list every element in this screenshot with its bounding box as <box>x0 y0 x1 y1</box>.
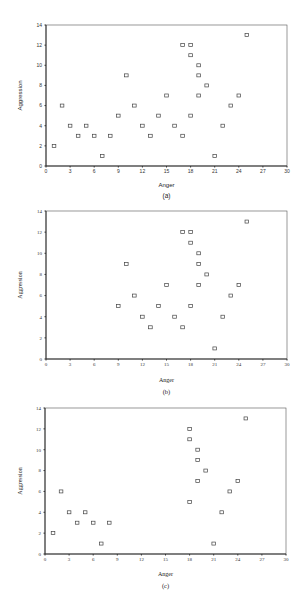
x-tick-label: 24 <box>236 168 242 174</box>
data-point <box>68 124 72 127</box>
data-point <box>125 262 129 265</box>
y-tick-label: 8 <box>40 272 43 277</box>
y-tick-label: 0 <box>39 163 42 169</box>
scatter-figure: 03691215182124273002468101214AngerAggres… <box>0 0 304 612</box>
data-point <box>189 305 193 308</box>
x-axis-title: Anger <box>158 571 173 577</box>
x-tick-label: 15 <box>163 557 169 562</box>
data-point <box>181 44 185 47</box>
data-point <box>197 284 201 287</box>
data-point <box>229 294 233 297</box>
x-tick-label: 18 <box>188 168 194 174</box>
data-point <box>91 521 95 524</box>
data-point <box>149 134 153 137</box>
data-point <box>100 154 104 157</box>
x-tick-label: 30 <box>284 168 290 174</box>
figure-caption: (c) <box>162 582 169 590</box>
y-axis-title: Aggression <box>17 271 23 298</box>
y-tick-label: 6 <box>39 489 42 494</box>
y-tick-label: 2 <box>39 143 42 149</box>
data-point <box>205 84 209 87</box>
data-point <box>117 114 121 117</box>
data-point <box>59 490 63 493</box>
x-tick-label: 3 <box>68 557 71 562</box>
data-point <box>133 294 137 297</box>
x-tick-label: 3 <box>69 168 72 174</box>
x-tick-label: 15 <box>164 168 170 174</box>
y-tick-label: 6 <box>40 293 43 298</box>
scatter-plot-a: 03691215182124273002468101214AngerAggres… <box>17 22 290 200</box>
data-point <box>173 124 177 127</box>
y-axis-title: Aggression <box>17 467 23 494</box>
x-tick-label: 6 <box>93 362 96 367</box>
data-point <box>107 521 111 524</box>
data-point <box>84 124 88 127</box>
data-point <box>117 305 121 308</box>
y-tick-label: 4 <box>39 123 42 129</box>
x-tick-label: 30 <box>284 557 290 562</box>
y-tick-label: 2 <box>39 531 42 536</box>
x-tick-label: 27 <box>260 362 266 367</box>
data-point <box>189 231 193 234</box>
data-point <box>196 459 200 462</box>
data-point <box>188 438 192 441</box>
data-point <box>157 114 161 117</box>
y-tick-label: 8 <box>39 82 42 88</box>
data-point <box>125 74 129 77</box>
data-point <box>197 262 201 265</box>
y-tick-label: 12 <box>36 427 42 432</box>
data-point <box>67 511 71 514</box>
y-tick-label: 14 <box>36 22 42 28</box>
scatter-plot-b: 03691215182124273002468101214AngerAggres… <box>17 209 290 396</box>
y-tick-label: 14 <box>37 209 43 214</box>
data-point <box>133 104 137 107</box>
data-point <box>213 347 217 350</box>
x-axis-title: Anger <box>158 182 174 188</box>
data-point <box>197 252 201 255</box>
x-tick-label: 9 <box>116 557 119 562</box>
data-point <box>52 144 56 147</box>
y-tick-label: 2 <box>40 336 43 341</box>
data-point <box>181 231 185 234</box>
x-tick-label: 24 <box>235 557 241 562</box>
plot-frame <box>45 408 286 554</box>
y-tick-label: 4 <box>40 315 43 320</box>
x-tick-label: 0 <box>45 168 48 174</box>
data-point <box>189 114 193 117</box>
data-point <box>76 134 80 137</box>
x-tick-label: 9 <box>117 168 120 174</box>
y-tick-label: 10 <box>37 251 43 256</box>
y-tick-label: 8 <box>39 468 42 473</box>
x-tick-label: 3 <box>69 362 72 367</box>
data-point <box>229 104 233 107</box>
data-point <box>51 532 55 535</box>
data-point <box>181 326 185 329</box>
x-tick-label: 15 <box>164 362 170 367</box>
y-tick-label: 6 <box>39 102 42 108</box>
data-point <box>165 284 169 287</box>
data-point <box>205 273 209 276</box>
data-point <box>173 315 177 318</box>
data-point <box>108 134 112 137</box>
x-tick-label: 6 <box>93 168 96 174</box>
x-tick-label: 30 <box>285 362 291 367</box>
data-point <box>245 220 249 223</box>
x-tick-label: 0 <box>44 557 47 562</box>
x-tick-label: 24 <box>236 362 242 367</box>
x-tick-label: 12 <box>139 557 145 562</box>
y-tick-label: 10 <box>36 62 42 68</box>
x-tick-label: 9 <box>117 362 120 367</box>
x-tick-label: 12 <box>140 168 146 174</box>
x-tick-label: 12 <box>140 362 146 367</box>
data-point <box>60 104 64 107</box>
figure-caption: (b) <box>163 388 171 396</box>
data-point <box>75 521 79 524</box>
y-tick-label: 12 <box>36 42 42 48</box>
x-axis-title: Anger <box>159 377 174 383</box>
data-point <box>197 64 201 67</box>
data-point <box>237 284 241 287</box>
data-point <box>228 490 232 493</box>
data-point <box>221 124 225 127</box>
x-tick-label: 0 <box>45 362 48 367</box>
data-point <box>141 315 145 318</box>
